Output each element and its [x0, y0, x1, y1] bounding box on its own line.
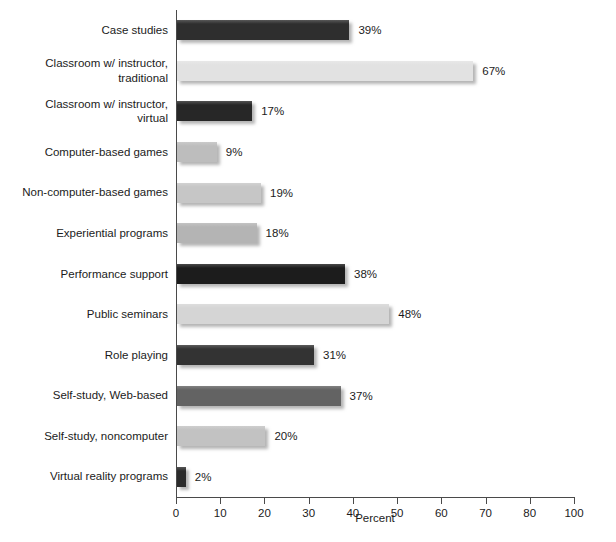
bar-container: 37%	[177, 375, 341, 416]
bar-value-label: 19%	[270, 187, 293, 199]
bar-row: Classroom w/ instructor, traditional67%	[0, 51, 616, 92]
x-axis-tick	[574, 497, 575, 504]
bar-container: 67%	[177, 51, 473, 92]
bar[interactable]	[177, 345, 314, 365]
category-label: Virtual reality programs	[0, 456, 168, 497]
category-label: Performance support	[0, 254, 168, 295]
bar-value-label: 2%	[195, 471, 212, 483]
bar-value-label: 37%	[350, 390, 373, 402]
bar-container: 9%	[177, 132, 217, 173]
bar[interactable]	[177, 386, 341, 406]
bar-value-label: 48%	[398, 308, 421, 320]
category-label: Public seminars	[0, 294, 168, 335]
plot-area: Case studies39%Classroom w/ instructor, …	[0, 0, 616, 542]
x-axis-tick	[397, 497, 398, 504]
bar[interactable]	[177, 20, 349, 40]
bar-row: Self-study, Web-based37%	[0, 375, 616, 416]
bar-rows: Case studies39%Classroom w/ instructor, …	[0, 10, 616, 497]
bar[interactable]	[177, 183, 261, 203]
bar-container: 2%	[177, 456, 186, 497]
x-axis-tick	[530, 497, 531, 504]
x-axis-tick	[176, 497, 177, 504]
bar[interactable]	[177, 304, 389, 324]
category-label: Computer-based games	[0, 132, 168, 173]
x-axis-tick	[441, 497, 442, 504]
bar-container: 48%	[177, 294, 389, 335]
horizontal-bar-chart: Case studies39%Classroom w/ instructor, …	[0, 0, 616, 542]
bar-container: 19%	[177, 172, 261, 213]
bar[interactable]	[177, 223, 257, 243]
bar-row: Computer-based games9%	[0, 132, 616, 173]
category-label: Case studies	[0, 10, 168, 51]
bar[interactable]	[177, 142, 217, 162]
x-axis-tick	[486, 497, 487, 504]
bar[interactable]	[177, 61, 473, 81]
bar-value-label: 9%	[226, 146, 243, 158]
bar-row: Non-computer-based games19%	[0, 172, 616, 213]
bar-row: Classroom w/ instructor, virtual17%	[0, 91, 616, 132]
bar[interactable]	[177, 467, 186, 487]
category-label: Role playing	[0, 335, 168, 376]
x-axis-title: Percent	[176, 512, 574, 524]
category-label: Self-study, noncomputer	[0, 416, 168, 457]
x-axis-tick	[264, 497, 265, 504]
bar-value-label: 31%	[323, 349, 346, 361]
x-axis-tick	[309, 497, 310, 504]
bar-row: Experiential programs18%	[0, 213, 616, 254]
bar[interactable]	[177, 264, 345, 284]
bar-container: 20%	[177, 416, 265, 457]
bar-container: 39%	[177, 10, 349, 51]
bar-value-label: 38%	[354, 268, 377, 280]
category-label: Classroom w/ instructor, virtual	[0, 91, 168, 132]
category-label: Self-study, Web-based	[0, 375, 168, 416]
category-label: Experiential programs	[0, 213, 168, 254]
x-axis-tick	[220, 497, 221, 504]
bar-row: Self-study, noncomputer20%	[0, 416, 616, 457]
bar-container: 38%	[177, 254, 345, 295]
category-label: Non-computer-based games	[0, 172, 168, 213]
bar-value-label: 17%	[261, 105, 284, 117]
bar-row: Case studies39%	[0, 10, 616, 51]
category-label: Classroom w/ instructor, traditional	[0, 51, 168, 92]
bar-container: 31%	[177, 335, 314, 376]
bar-row: Role playing31%	[0, 335, 616, 376]
bar-row: Virtual reality programs2%	[0, 456, 616, 497]
x-axis-tick	[353, 497, 354, 504]
bar-container: 18%	[177, 213, 257, 254]
bar-value-label: 18%	[266, 227, 289, 239]
bar[interactable]	[177, 426, 265, 446]
bar-value-label: 67%	[482, 65, 505, 77]
bar-row: Performance support38%	[0, 254, 616, 295]
bar-row: Public seminars48%	[0, 294, 616, 335]
bar-value-label: 39%	[358, 24, 381, 36]
bar[interactable]	[177, 101, 252, 121]
bar-container: 17%	[177, 91, 252, 132]
bar-value-label: 20%	[274, 430, 297, 442]
